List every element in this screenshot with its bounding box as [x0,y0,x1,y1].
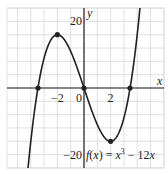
data-point [108,139,113,144]
x-axis-label: x [156,74,163,88]
data-point [55,32,60,37]
x-tick-label: −2 [51,91,64,105]
y-axis-label: y [86,6,93,20]
fn-rest: − 12 [125,148,150,162]
data-point [81,85,86,90]
data-point [127,85,132,90]
x-tick-label: 2 [108,91,114,105]
data-point [35,85,40,90]
fn-close: ) = [99,148,116,162]
y-tick-label: 20 [70,14,82,28]
x-tick-label: 0 [76,91,82,105]
fn-x3: x [149,148,156,162]
y-tick-label: −20 [63,148,82,162]
cubic-function-graph: −202 20−20 x y f(x) = x3 − 12x [0,0,168,174]
